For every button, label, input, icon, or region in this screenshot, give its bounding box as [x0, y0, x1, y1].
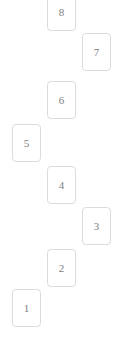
card-6[interactable]: 6 — [47, 81, 76, 119]
card-label: 1 — [24, 303, 30, 314]
card-stack-container: 87654321 — [0, 0, 121, 348]
card-8[interactable]: 8 — [47, 0, 76, 31]
card-label: 5 — [24, 138, 30, 149]
card-2[interactable]: 2 — [47, 249, 76, 287]
card-label: 7 — [94, 47, 100, 58]
card-label: 4 — [59, 180, 65, 191]
card-label: 8 — [59, 7, 65, 18]
card-label: 3 — [94, 221, 100, 232]
card-3[interactable]: 3 — [82, 207, 111, 245]
card-label: 6 — [59, 95, 65, 106]
card-4[interactable]: 4 — [47, 166, 76, 204]
card-1[interactable]: 1 — [12, 289, 41, 327]
card-7[interactable]: 7 — [82, 33, 111, 71]
card-label: 2 — [59, 263, 65, 274]
card-5[interactable]: 5 — [12, 124, 41, 162]
